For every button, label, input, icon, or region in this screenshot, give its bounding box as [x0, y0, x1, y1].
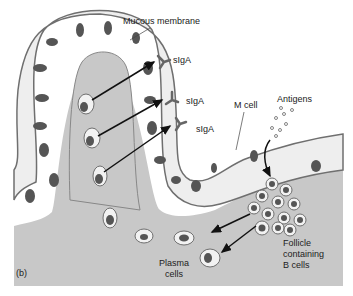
label-follicle-line2: containing	[283, 249, 324, 259]
mucous-membrane-leader	[130, 28, 150, 40]
label-antigens: Antigens	[277, 94, 312, 104]
label-mucous-membrane: Mucous membrane	[123, 16, 200, 26]
antigen-particles	[271, 107, 294, 138]
panel-label: (b)	[16, 268, 27, 278]
label-follicle-line1: Follicle	[283, 238, 311, 248]
label-follicle-line3: B cells	[283, 260, 310, 270]
label-siga-1: sIgA	[173, 55, 191, 65]
label-plasma-line1: Plasma	[156, 258, 192, 268]
villus-core	[69, 52, 140, 210]
label-siga-3: sIgA	[196, 124, 214, 134]
label-siga-2: sIgA	[186, 96, 204, 106]
label-plasma-line2: cells	[156, 269, 192, 279]
m-cell-leader	[236, 112, 244, 150]
label-m-cell: M cell	[234, 100, 258, 110]
